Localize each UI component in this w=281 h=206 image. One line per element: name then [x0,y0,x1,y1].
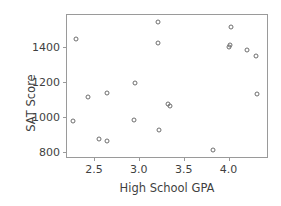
data-point [105,138,110,143]
data-point [133,81,138,86]
x-axis-tick [139,157,140,161]
y-axis-tick [63,152,67,153]
data-point [157,128,162,133]
x-axis-tick-label: 3.0 [130,164,148,175]
data-point [105,91,110,96]
data-point [73,36,78,41]
x-axis-tick [229,157,230,161]
data-point [244,48,249,53]
data-point [155,20,160,25]
x-axis-tick [184,157,185,161]
x-axis-tick-label: 2.5 [85,164,103,175]
data-point [132,118,137,123]
y-axis-tick [63,82,67,83]
plot-area: 800100012001400 2.53.03.54.0 [66,14,268,158]
x-axis-tick [94,157,95,161]
x-axis-label: High School GPA [66,182,268,194]
scatter-plot-figure: SAT Score 800100012001400 2.53.03.54.0 H… [0,0,281,206]
x-axis-tick-label: 4.0 [220,164,238,175]
data-point [97,136,102,141]
data-point [71,119,76,124]
y-axis-tick-label: 1000 [32,111,60,122]
data-point [253,53,258,58]
data-point [155,41,160,46]
data-point [168,103,173,108]
data-point [228,42,233,47]
data-point [211,148,216,153]
y-axis-tick-label: 1400 [32,41,60,52]
data-point [255,92,260,97]
y-axis-tick [63,47,67,48]
data-point [85,94,90,99]
y-axis-tick-label: 1200 [32,76,60,87]
data-point [229,24,234,29]
y-axis-tick-label: 800 [39,146,60,157]
x-axis-tick-label: 3.5 [175,164,193,175]
y-axis-tick [63,117,67,118]
